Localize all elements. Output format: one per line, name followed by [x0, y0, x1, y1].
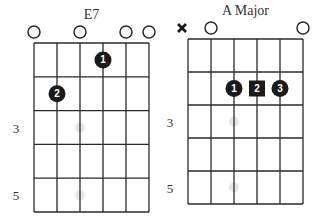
fret-number-label: 5 [13, 188, 20, 203]
finger-position-marker: 1 [226, 80, 243, 97]
chord-diagram-e7: E73512 [13, 7, 155, 212]
finger-position-marker: 2 [249, 81, 265, 97]
fret-number-label: 5 [167, 181, 174, 196]
open-string-icon [205, 22, 217, 34]
finger-position-marker: 3 [272, 80, 289, 97]
fret-number-label: 3 [167, 115, 174, 130]
open-string-icon [28, 26, 40, 38]
finger-number: 3 [277, 83, 283, 94]
finger-position-marker: 1 [95, 51, 112, 68]
chord-title: A Major [222, 3, 269, 18]
open-string-icon [74, 26, 86, 38]
open-string-icon [143, 26, 155, 38]
chord-diagram-a-major: A Major35123 [167, 3, 309, 204]
finger-number: 1 [231, 83, 237, 94]
chord-title: E7 [84, 7, 100, 22]
finger-number: 2 [254, 83, 260, 94]
finger-number: 1 [100, 54, 106, 65]
open-string-icon [297, 22, 309, 34]
chord-diagrams: E73512 A Major35123 [0, 0, 322, 223]
finger-number: 2 [54, 88, 60, 99]
finger-position-marker: 2 [49, 85, 66, 102]
open-string-icon [120, 26, 132, 38]
muted-string-x-icon [178, 24, 186, 32]
fret-number-label: 3 [13, 121, 20, 136]
